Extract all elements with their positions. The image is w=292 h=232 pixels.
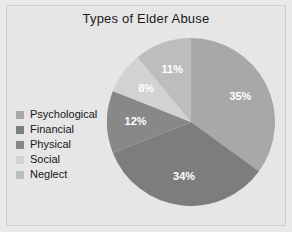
legend-item[interactable]: Social: [16, 152, 116, 167]
pie-slice-label: 12%: [125, 115, 147, 127]
legend-item-label: Social: [30, 152, 60, 167]
legend-item-label: Physical: [30, 137, 71, 152]
legend-item-label: Financial: [30, 122, 74, 137]
pie-svg: 35%34%12%8%11%: [107, 38, 275, 206]
pie-slice-label: 8%: [138, 82, 154, 94]
legend-swatch-icon: [16, 156, 24, 164]
legend-swatch-icon: [16, 111, 24, 119]
legend-swatch-icon: [16, 171, 24, 179]
legend-swatch-icon: [16, 126, 24, 134]
pie-chart: 35%34%12%8%11%: [107, 38, 275, 206]
legend-swatch-icon: [16, 141, 24, 149]
legend-item[interactable]: Financial: [16, 122, 116, 137]
chart-legend: PsychologicalFinancialPhysicalSocialNegl…: [16, 107, 116, 182]
chart-frame: Types of Elder Abuse PsychologicalFinanc…: [0, 0, 292, 232]
legend-item[interactable]: Psychological: [16, 107, 116, 122]
legend-item-label: Psychological: [30, 107, 97, 122]
legend-item[interactable]: Neglect: [16, 167, 116, 182]
pie-slice-label: 35%: [229, 90, 251, 102]
pie-slice-label: 11%: [162, 63, 184, 75]
legend-item-label: Neglect: [30, 167, 67, 182]
pie-slice-label: 34%: [173, 170, 195, 182]
chart-title: Types of Elder Abuse: [0, 11, 292, 26]
legend-item[interactable]: Physical: [16, 137, 116, 152]
